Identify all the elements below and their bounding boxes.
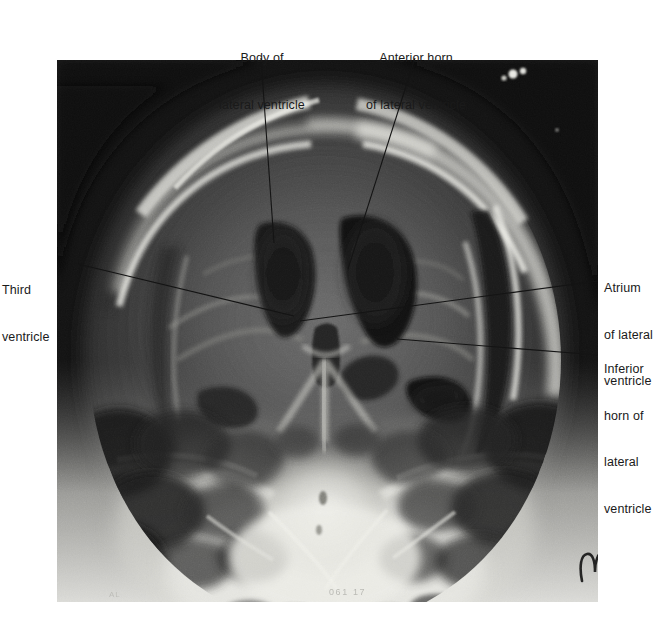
label-line: ventricle <box>2 330 74 346</box>
label-line: lateral ventricle <box>196 98 328 114</box>
label-line: Body of <box>196 51 328 67</box>
label-line: Third <box>2 283 74 299</box>
label-third-ventricle: Third ventricle <box>2 252 74 376</box>
label-line: Atrium <box>604 281 659 297</box>
label-anterior-horn-of-lateral-ventricle: Anterior horn of lateral ventricle <box>340 20 492 144</box>
label-line: lateral <box>604 455 659 471</box>
label-line: Anterior horn <box>340 51 492 67</box>
figure-root: 061 17 AL Body of lateral ventricle Ante… <box>0 0 659 620</box>
label-line: ventricle <box>604 502 659 518</box>
label-line: horn of <box>604 409 659 425</box>
label-line: Inferior <box>604 362 659 378</box>
label-inferior-horn-of-lateral-ventricle: Inferior horn of lateral ventricle <box>604 331 659 548</box>
label-line: of lateral ventricle <box>340 98 492 114</box>
label-body-of-lateral-ventricle: Body of lateral ventricle <box>196 20 328 144</box>
